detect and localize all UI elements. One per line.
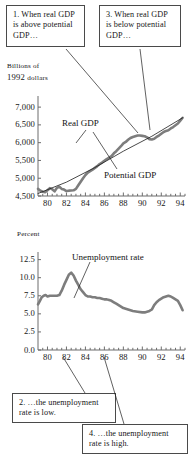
bot-ytick-label: 2.5 bbox=[0, 327, 35, 336]
top-xtick-label: 88 bbox=[113, 199, 133, 208]
top-xtick-label: 92 bbox=[151, 199, 171, 208]
top-xtick-label: 86 bbox=[94, 199, 114, 208]
bot-xtick-label: 86 bbox=[94, 353, 114, 362]
top-ytick-label: 5,500 bbox=[0, 156, 35, 165]
bot-ytick-label: 12.5 bbox=[0, 255, 35, 264]
bot-xtick-label: 94 bbox=[170, 353, 190, 362]
top-xtick-label: 80 bbox=[37, 199, 57, 208]
top-chart-axes bbox=[38, 96, 185, 196]
top-ytick-label: 7,000 bbox=[0, 103, 35, 112]
bot-xtick-label: 82 bbox=[56, 353, 76, 362]
bot-xtick-label: 84 bbox=[75, 353, 95, 362]
top-xtick-label: 84 bbox=[75, 199, 95, 208]
top-ytick-label: 5,000 bbox=[0, 174, 35, 183]
bot-xtick-label: 80 bbox=[37, 353, 57, 362]
bot-ytick-label: 10.0 bbox=[0, 273, 35, 282]
bot-xtick-label: 90 bbox=[132, 353, 152, 362]
top-ytick-label: 6,500 bbox=[0, 120, 35, 129]
top-ytick-label: 4,500 bbox=[0, 192, 35, 201]
plot-layer bbox=[0, 0, 195, 461]
bottom-chart-curves bbox=[38, 273, 183, 313]
top-chart-curves bbox=[38, 118, 183, 194]
top-ytick-label: 6,000 bbox=[0, 138, 35, 147]
top-xtick-label: 82 bbox=[56, 199, 76, 208]
top-xtick-label: 90 bbox=[132, 199, 152, 208]
bot-ytick-label: 5.0 bbox=[0, 309, 35, 318]
bot-xtick-label: 92 bbox=[151, 353, 171, 362]
callout-leader-lines bbox=[63, 49, 150, 424]
figure-root: 1. When real GDP is above potential GDP…… bbox=[0, 0, 195, 461]
top-xtick-label: 94 bbox=[170, 199, 190, 208]
bot-ytick-label: 7.5 bbox=[0, 291, 35, 300]
bot-ytick-label: 0.0 bbox=[0, 346, 35, 355]
bot-xtick-label: 88 bbox=[113, 353, 133, 362]
